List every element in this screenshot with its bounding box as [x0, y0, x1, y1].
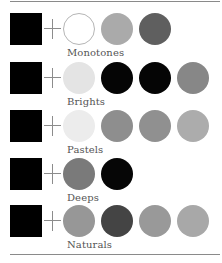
plus-icon — [44, 116, 61, 136]
group-label: Deeps — [67, 192, 99, 203]
swatch-circle — [177, 205, 209, 237]
bottom-divider — [10, 254, 220, 255]
base-black-swatch — [10, 110, 42, 142]
swatch-circle — [139, 62, 171, 94]
group-label: Monotones — [67, 47, 124, 58]
group-brights: Brights — [0, 62, 222, 110]
group-pastels: Pastels — [0, 110, 222, 158]
swatch-circle — [63, 110, 95, 142]
swatch-circle — [63, 13, 95, 45]
top-divider — [10, 1, 220, 2]
group-label: Brights — [67, 96, 105, 107]
group-naturals: Naturals — [0, 205, 222, 253]
swatch-circle — [101, 13, 133, 45]
base-black-swatch — [10, 205, 42, 237]
swatch-circle — [101, 110, 133, 142]
group-label: Pastels — [67, 144, 103, 155]
base-black-swatch — [10, 13, 42, 45]
plus-icon — [44, 164, 61, 184]
swatch-circle — [101, 158, 133, 190]
base-black-swatch — [10, 62, 42, 94]
swatch-circle — [177, 62, 209, 94]
group-label: Naturals — [67, 239, 112, 250]
swatch-circle — [63, 62, 95, 94]
plus-icon — [44, 211, 61, 231]
swatch-circle — [177, 110, 209, 142]
plus-icon — [44, 19, 61, 39]
swatch-circle — [63, 205, 95, 237]
swatch-circle — [101, 62, 133, 94]
plus-icon — [44, 68, 61, 88]
group-monotones: Monotones — [0, 13, 222, 61]
swatch-circle — [63, 158, 95, 190]
swatch-circle — [139, 110, 171, 142]
base-black-swatch — [10, 158, 42, 190]
swatch-circle — [139, 205, 171, 237]
swatch-circle — [101, 205, 133, 237]
swatch-circle — [139, 13, 171, 45]
group-deeps: Deeps — [0, 158, 222, 206]
